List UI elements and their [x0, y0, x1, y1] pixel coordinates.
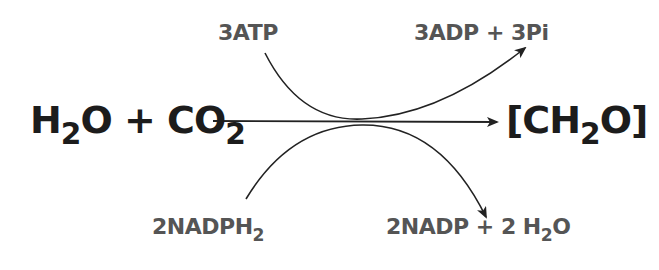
main-reaction-arrow: [213, 121, 497, 122]
nadph-output-label: 2NADP + 2 H2O: [386, 214, 570, 239]
product-o: O]: [600, 98, 648, 142]
reactant-h: H: [30, 98, 61, 142]
product-ch: [CH: [506, 98, 580, 142]
subscript: 2: [541, 225, 552, 245]
atp-output-label: 3ADP + 3Pi: [414, 20, 548, 45]
nadp-text: 2NADP + 2 H: [386, 214, 541, 239]
subscript: 2: [253, 225, 264, 245]
nadph-input-label: 2NADPH2: [152, 214, 264, 239]
atp-input-label: 3ATP: [218, 20, 278, 45]
subscript: 2: [580, 116, 600, 151]
subscript: 2: [61, 116, 81, 151]
nadph-curve-arrow: [246, 125, 486, 217]
water-o: O: [552, 214, 570, 239]
subscript: 2: [225, 116, 245, 151]
atp-curve-arrow: [265, 48, 525, 119]
reactants-label: H2O + CO2: [30, 98, 245, 142]
nadph-text: 2NADPH: [152, 214, 253, 239]
product-label: [CH2O]: [506, 98, 647, 142]
reactant-o-co: O + CO: [80, 98, 225, 142]
